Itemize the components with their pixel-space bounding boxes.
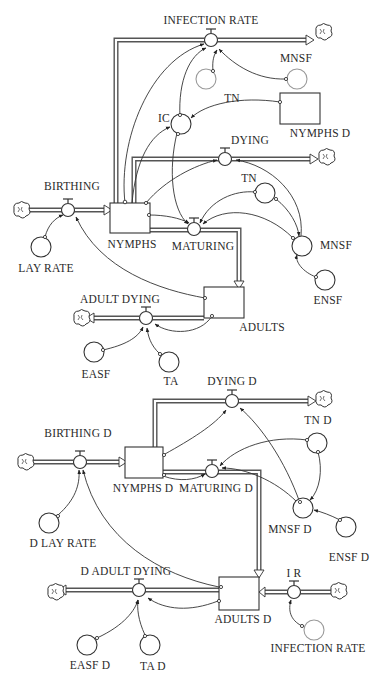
stock-nymphs-d-ref[interactable] xyxy=(280,93,320,124)
label-i-r: I R xyxy=(287,567,302,579)
converter-mnsf-d[interactable] xyxy=(293,498,313,518)
label-adults-d: ADULTS D xyxy=(214,613,271,625)
valve-infection-rate[interactable] xyxy=(205,29,218,47)
cloud-icon xyxy=(319,149,335,166)
label-mnsf-top: MNSF xyxy=(280,52,312,64)
label-birthing-d: BIRTHING D xyxy=(44,427,111,439)
valve-i-r[interactable] xyxy=(288,581,301,599)
stock-nymphs[interactable] xyxy=(110,203,150,233)
label-tn: TN xyxy=(241,172,257,184)
converter-easf[interactable] xyxy=(84,342,104,362)
stock-adults[interactable] xyxy=(204,287,244,318)
cloud-icon xyxy=(316,391,332,408)
maturing-pipe xyxy=(150,230,244,289)
label-dying-d: DYING D xyxy=(207,375,257,387)
valve-adult-dying[interactable] xyxy=(140,307,153,325)
cloud-icon xyxy=(14,202,30,219)
label-nymphs-d-ref: NYMPHS D xyxy=(290,127,351,139)
converter-ta-d[interactable] xyxy=(140,635,160,655)
cloud-icon xyxy=(18,454,34,471)
label-infection-rate: INFECTION RATE xyxy=(163,14,258,26)
label-tn-d: TN D xyxy=(304,414,331,426)
valve-dying[interactable] xyxy=(219,148,232,166)
stock-flow-diagram: INFECTION RATE TN MNSF NYMPHS D IC DYING… xyxy=(0,0,382,679)
label-birthing: BIRTHING xyxy=(44,180,100,192)
label-ensf-d: ENSF D xyxy=(329,551,370,563)
label-maturing-d: MATURING D xyxy=(179,482,253,494)
converter-easf-d[interactable] xyxy=(77,635,97,655)
converter-infection-rate-ref[interactable] xyxy=(304,620,324,640)
converter-mnsf-top[interactable] xyxy=(287,69,307,89)
label-easf: EASF xyxy=(82,368,111,380)
converter-ensf[interactable] xyxy=(315,270,335,290)
converter-tn[interactable] xyxy=(255,183,275,203)
label-nymphs-d: NYMPHS D xyxy=(113,482,174,494)
valve-maturing-d[interactable] xyxy=(206,460,219,478)
label-easf-d: EASF D xyxy=(70,659,111,671)
converter-ta[interactable] xyxy=(159,352,179,372)
cloud-icon xyxy=(74,310,90,327)
label-ta-d: TA D xyxy=(140,660,166,672)
label-nymphs: NYMPHS xyxy=(107,238,156,250)
cloud-icon xyxy=(48,584,64,601)
label-d-adult-dying: D ADULT DYING xyxy=(81,565,172,577)
cloud-icon xyxy=(331,583,347,600)
valve-dying-d[interactable] xyxy=(226,390,239,408)
label-dying: DYING xyxy=(231,134,269,146)
label-ta: TA xyxy=(164,375,179,387)
label-d-lay-rate: D LAY RATE xyxy=(30,537,97,549)
label-adult-dying: ADULT DYING xyxy=(80,293,160,305)
cloud-icon xyxy=(316,24,332,41)
label-maturing: MATURING xyxy=(172,240,234,252)
label-mnsf: MNSF xyxy=(320,239,352,251)
valve-birthing[interactable] xyxy=(62,199,75,217)
label-mnsf-d: MNSF D xyxy=(268,523,312,535)
converter-mnsf[interactable] xyxy=(292,236,312,256)
label-ic: IC xyxy=(158,112,170,124)
valve-d-adult-dying[interactable] xyxy=(133,579,146,597)
label-lay-rate: LAY RATE xyxy=(18,262,73,274)
label-tn-top: TN xyxy=(224,92,240,104)
label-infection-rate-ref: INFECTION RATE xyxy=(270,642,365,654)
link-dots xyxy=(56,438,341,639)
stock-nymphs-d[interactable] xyxy=(125,447,163,478)
valve-maturing[interactable] xyxy=(188,218,201,236)
valve-birthing-d[interactable] xyxy=(74,451,87,469)
converter-lay-rate[interactable] xyxy=(31,237,51,257)
label-adults: ADULTS xyxy=(239,321,285,333)
converter-ic[interactable] xyxy=(171,114,191,134)
stock-adults-d[interactable] xyxy=(219,577,259,610)
converter-tn-d[interactable] xyxy=(307,433,327,453)
label-ensf: ENSF xyxy=(314,294,343,306)
